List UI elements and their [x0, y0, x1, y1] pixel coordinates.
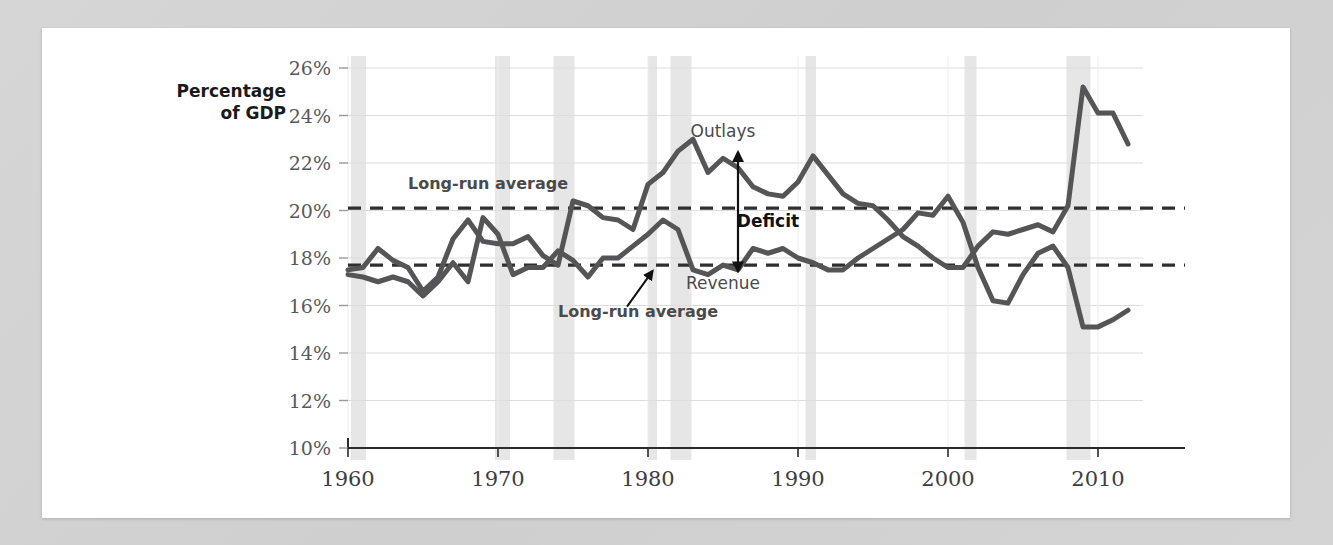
annotation-outlays: Outlays: [691, 121, 756, 141]
gridlines: [348, 56, 1143, 448]
y-tick-label: 10%: [289, 437, 331, 459]
x-tick-label: 1960: [321, 467, 374, 491]
x-tick-label: 1970: [471, 467, 524, 491]
x-tick-label: 2000: [921, 467, 974, 491]
y-tick-label: 18%: [289, 247, 331, 269]
chart-card: 10%12%14%16%18%20%22%24%26% 196019701980…: [42, 28, 1290, 518]
page-root: 10%12%14%16%18%20%22%24%26% 196019701980…: [0, 0, 1333, 545]
axes: [339, 68, 1185, 457]
x-tick-label: 1980: [621, 467, 674, 491]
y-axis-title-line1: Percentage: [177, 81, 286, 101]
y-tick-label: 12%: [289, 390, 331, 412]
annotation-longrun-average-outlays: Long-run average: [408, 174, 568, 193]
y-tick-label: 14%: [289, 342, 331, 364]
y-tick-label: 20%: [289, 200, 331, 222]
y-tick-label: 24%: [289, 105, 331, 127]
annotation-deficit: Deficit: [737, 211, 799, 231]
annotations-layer: Percentageof GDPOutlaysRevenueDeficitLon…: [177, 81, 800, 321]
x-tick-label: 1990: [771, 467, 824, 491]
x-tick-label: 2010: [1071, 467, 1124, 491]
x-tick-labels: 196019701980199020002010: [321, 467, 1124, 491]
y-tick-label: 26%: [289, 57, 331, 79]
y-tick-labels: 10%12%14%16%18%20%22%24%26%: [289, 57, 331, 459]
annotation-revenue: Revenue: [686, 273, 760, 293]
y-tick-label: 16%: [289, 295, 331, 317]
cbo-budget-chart: 10%12%14%16%18%20%22%24%26% 196019701980…: [42, 28, 1290, 518]
y-axis-title-line2: of GDP: [220, 103, 286, 123]
y-tick-label: 22%: [289, 152, 331, 174]
annotation-longrun-average-revenue: Long-run average: [558, 302, 718, 321]
